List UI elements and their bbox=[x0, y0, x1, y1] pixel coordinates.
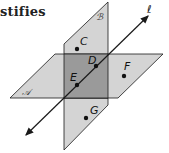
label-d: D bbox=[88, 54, 96, 67]
planes-diagram: C D E F G 𝒜 ℬ ℓ bbox=[0, 0, 169, 153]
point-c bbox=[75, 47, 79, 51]
plane-b-lower bbox=[64, 98, 108, 150]
line-l-lower bbox=[26, 98, 64, 135]
point-g bbox=[84, 116, 88, 120]
point-f bbox=[122, 74, 126, 78]
label-line-l: ℓ bbox=[146, 3, 152, 16]
label-f: F bbox=[124, 60, 131, 73]
label-g: G bbox=[90, 104, 99, 117]
label-e: E bbox=[70, 71, 77, 84]
label-c: C bbox=[80, 35, 88, 48]
label-plane-b: ℬ bbox=[96, 12, 104, 22]
